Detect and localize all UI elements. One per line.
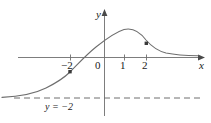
tick-label-one: 1: [120, 60, 126, 71]
x-axis: [18, 55, 205, 61]
y-axis-arrowhead: [102, 9, 108, 16]
y-axis-label: y: [96, 9, 101, 20]
asymptote-equation-label: y = −2: [45, 102, 73, 112]
tick-label-two: 2: [142, 60, 148, 71]
y-axis: [102, 9, 108, 116]
x-axis-label: x: [199, 60, 204, 71]
point-marker-right: [145, 42, 148, 45]
tick-label-zero: 0: [95, 60, 101, 71]
tick-label-neg-two: −2: [61, 60, 73, 71]
graph-figure: y x −2 0 1 2 y = −2: [0, 0, 211, 123]
plot-canvas: [0, 0, 211, 123]
